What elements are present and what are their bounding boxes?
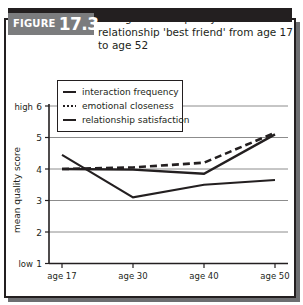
legend-item-emotional-closeness: emotional closeness — [63, 99, 177, 113]
legend-label-interaction-frequency: interaction frequency — [82, 87, 179, 98]
x-tick-label-age-30: age 30 — [118, 271, 147, 281]
y-tick-label-6: 6 — [36, 102, 42, 112]
y-axis-high-label: high — [14, 102, 33, 112]
plot-area: 6 5 4 3 2 1 high low mean quality score … — [0, 0, 303, 305]
y-tick-label-3: 3 — [36, 196, 42, 206]
series-line-interaction-frequency — [62, 134, 275, 173]
legend-swatch-solid-icon — [63, 87, 77, 97]
legend-item-interaction-frequency: interaction frequency — [63, 85, 177, 99]
figure-17-3: FIGURE 17.3 Changes in the quality* of t… — [0, 0, 303, 305]
legend-label-emotional-closeness: emotional closeness — [82, 101, 174, 112]
legend-item-relationship-satisfaction: relationship satisfaction — [63, 113, 177, 127]
x-tick-label-age-50: age 50 — [260, 271, 289, 281]
y-tick-label-2: 2 — [36, 228, 42, 238]
y-tick-label-5: 5 — [36, 133, 42, 143]
y-axis-low-label: low — [18, 259, 33, 269]
y-tick-label-1: 1 — [36, 259, 42, 269]
y-tick-label-4: 4 — [36, 165, 42, 175]
series-line-relationship-satisfaction — [62, 155, 275, 198]
y-axis-title: mean quality score — [12, 146, 22, 233]
legend-label-relationship-satisfaction: relationship satisfaction — [82, 115, 190, 126]
chart-legend: interaction frequency emotional closenes… — [57, 80, 183, 132]
legend-swatch-solid-2-icon — [63, 115, 77, 125]
chart-svg: 6 5 4 3 2 1 high low mean quality score … — [0, 0, 303, 305]
x-tick-label-age-17: age 17 — [47, 271, 76, 281]
x-tick-label-age-40: age 40 — [189, 271, 218, 281]
legend-swatch-dotted-icon — [63, 101, 77, 111]
